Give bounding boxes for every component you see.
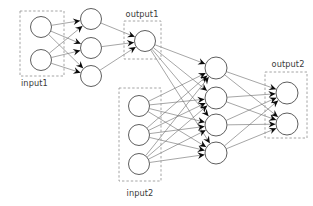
edge-h1c-o1a [100,47,136,70]
edge-i2c-h2b [147,105,207,156]
edge-i2a-h2c [149,109,204,123]
neuron-h2c [205,114,227,136]
group-label-input2: input2 [127,188,154,198]
edge-o1a-h2a [155,45,205,64]
edge-i1a-h1b [51,31,81,44]
edge-h2c-o2a [226,98,276,121]
arrowhead-h1c-o1a [128,47,136,54]
edge-i2b-h2d [150,137,205,150]
neuron-i2b [129,125,150,146]
neuron-i1b [31,50,52,71]
network-canvas: input1output1input2output2 [0,0,313,206]
group-label-output2: output2 [272,59,305,69]
neuron-i1a [31,17,52,38]
edge-h2a-o2a [227,72,276,89]
neuron-o2a [276,82,298,104]
neuron-h1a [81,9,102,30]
neuron-h2a [205,57,227,79]
neuron-o1a [135,31,156,52]
edge-i2a-h2a [149,73,206,101]
edge-h2b-o2a [227,94,275,97]
neuron-h2d [205,142,227,164]
edge-h2d-o2b [226,128,276,148]
group-label-output1: output1 [126,9,159,19]
nodes-layer [31,9,299,175]
arrowhead-i1b-h1a [75,26,83,33]
edge-i2c-h2d [150,155,205,163]
edge-i2c-h2c [149,130,206,159]
group-label-input1: input1 [21,78,48,88]
edge-i2b-h2c [150,126,205,133]
edge-i2b-h2a [147,76,207,128]
arrowhead-o1a-h2d [203,136,210,144]
neuron-h1b [81,38,102,59]
neural-network-diagram: input1output1input2output2 [0,0,313,206]
neuron-h1c [81,66,102,87]
edge-i1b-h1a [49,26,82,53]
edge-h1a-o1a [101,23,135,37]
neuron-o2b [276,113,298,135]
neuron-i2a [129,96,150,117]
neuron-h2b [205,87,227,109]
edge-h2c-o2b [227,124,275,125]
arrowhead-i2a-h2d [198,141,206,147]
edge-h2b-o2b [227,102,277,120]
neuron-i2c [129,154,150,175]
